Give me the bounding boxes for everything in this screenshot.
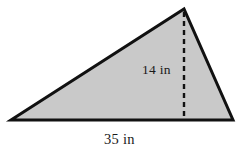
geometry-figure: 14 in 35 in [0, 0, 238, 154]
height-dimension-label: 14 in [142, 63, 171, 77]
triangle-shape [11, 9, 233, 120]
base-dimension-label: 35 in [104, 132, 135, 147]
